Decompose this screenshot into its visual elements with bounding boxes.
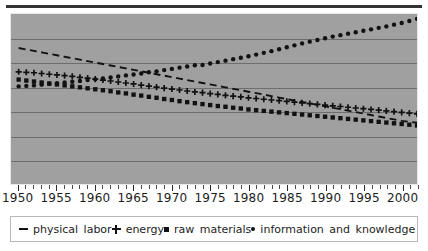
x-axis-label: 1990 (310, 191, 341, 205)
x-axis-label: 1980 (233, 191, 264, 205)
x-tick-minor (164, 185, 165, 189)
x-tick-minor (233, 185, 234, 189)
x-tick-minor (303, 185, 304, 189)
data-series-layer (11, 14, 417, 184)
x-tick-minor (380, 185, 381, 189)
x-tick-minor (141, 185, 142, 189)
legend-item[interactable]: information and knowledge (251, 223, 415, 236)
x-tick-minor (295, 185, 296, 189)
x-tick-minor (356, 185, 357, 189)
x-tick-minor (87, 185, 88, 189)
series-energy (16, 69, 417, 117)
x-tick-minor (33, 185, 34, 189)
x-tick-minor (149, 185, 150, 189)
x-tick-minor (333, 185, 334, 189)
x-axis-label: 1960 (79, 191, 110, 205)
x-axis-label: 1955 (41, 191, 72, 205)
chart-figure: 1950195519601965197019751980198519901995… (0, 0, 428, 251)
x-axis-label: 1975 (195, 191, 226, 205)
x-axis-labels: 1950195519601965197019751980198519901995… (10, 191, 418, 209)
legend-item-label: raw materials (174, 223, 251, 236)
x-tick-minor (410, 185, 411, 189)
x-tick-minor (310, 185, 311, 189)
x-tick-minor (226, 185, 227, 189)
series-raw-materials (16, 77, 417, 127)
x-axis-label: 1985 (271, 191, 302, 205)
dash-icon (19, 228, 28, 230)
x-tick-minor (118, 185, 119, 189)
legend-item-label: information and knowledge (260, 223, 415, 236)
x-tick-minor (264, 185, 265, 189)
x-tick-minor (64, 185, 65, 189)
legend-item[interactable]: physical labor (19, 223, 112, 236)
x-tick-minor (187, 185, 188, 189)
x-tick-minor (349, 185, 350, 189)
legend-item[interactable]: energy (112, 223, 164, 236)
x-axis-label: 2000 (387, 191, 418, 205)
x-tick-minor (395, 185, 396, 189)
x-tick-minor (102, 185, 103, 189)
x-tick-minor (318, 185, 319, 189)
x-tick-minor (341, 185, 342, 189)
plot-inner (11, 14, 417, 184)
x-tick-minor (203, 185, 204, 189)
plus-icon (112, 225, 121, 234)
x-axis-label: 1970 (156, 191, 187, 205)
x-tick-minor (126, 185, 127, 189)
x-tick-minor (25, 185, 26, 189)
top-divider-rule (6, 5, 422, 8)
x-tick-minor (41, 185, 42, 189)
plot-area (10, 13, 418, 185)
x-axis-label: 1995 (348, 191, 379, 205)
x-tick-minor (110, 185, 111, 189)
x-tick-minor (256, 185, 257, 189)
x-tick-minor (387, 185, 388, 189)
x-tick-minor (279, 185, 280, 189)
x-tick-minor (156, 185, 157, 189)
chart-legend: physical laborenergyraw materialsinforma… (10, 216, 418, 242)
x-tick-minor (72, 185, 73, 189)
x-tick-minor (179, 185, 180, 189)
x-tick-minor (372, 185, 373, 189)
series-information-and-knowledge (16, 17, 417, 89)
x-tick-minor (79, 185, 80, 189)
legend-item-label: physical labor (33, 223, 112, 236)
square-icon (164, 227, 169, 232)
x-tick-minor (218, 185, 219, 189)
x-tick-minor (195, 185, 196, 189)
legend-item[interactable]: raw materials (164, 223, 251, 236)
x-tick-minor (418, 185, 419, 189)
x-tick-minor (241, 185, 242, 189)
x-axis-label: 1965 (118, 191, 149, 205)
x-tick-minor (272, 185, 273, 189)
dot-icon (251, 227, 255, 231)
legend-item-label: energy (126, 223, 164, 236)
x-axis-label: 1950 (2, 191, 33, 205)
x-tick-minor (49, 185, 50, 189)
